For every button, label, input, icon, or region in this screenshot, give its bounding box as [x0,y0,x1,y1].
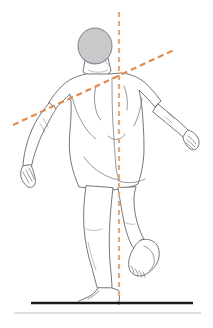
head-shape [78,28,112,64]
left-arm-shape [23,103,56,169]
standing-foot-shape [78,288,120,303]
torso-shape [48,73,161,190]
right-arm-shape [153,104,189,138]
anatomical-figure-svg [0,0,213,328]
human-figure-group [21,28,199,303]
posture-illustration-canvas [0,0,213,328]
standing-leg-shape [84,186,113,290]
